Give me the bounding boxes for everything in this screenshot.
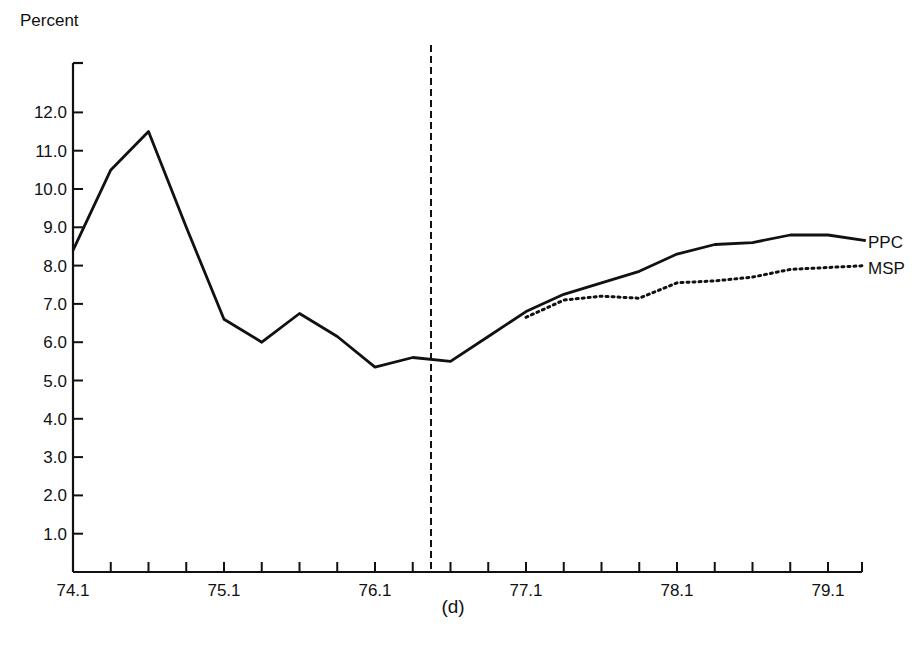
x-tick-label: 78.1 — [660, 581, 693, 600]
series-ppc-line — [73, 132, 866, 368]
x-tick-label: 74.1 — [56, 581, 89, 600]
y-tick-label: 1.0 — [43, 525, 67, 544]
y-tick-label: 6.0 — [43, 333, 67, 352]
y-tick-label: 5.0 — [43, 372, 67, 391]
line-chart: 1.02.03.04.05.06.07.08.09.010.011.012.0 … — [0, 0, 923, 652]
series-lines — [73, 132, 866, 368]
y-tick-label: 8.0 — [43, 257, 67, 276]
panel-label: (d) — [441, 596, 464, 617]
y-tick-label: 7.0 — [43, 295, 67, 314]
x-tick-label: 79.1 — [811, 581, 844, 600]
x-axis: 74.175.176.177.178.179.1 — [56, 562, 862, 600]
series-label-msp: MSP — [868, 259, 905, 278]
x-tick-label: 75.1 — [207, 581, 240, 600]
y-tick-label: 10.0 — [34, 180, 67, 199]
y-tick-label: 3.0 — [43, 448, 67, 467]
x-tick-label: 77.1 — [509, 581, 542, 600]
x-tick-label: 76.1 — [358, 581, 391, 600]
y-tick-label: 2.0 — [43, 486, 67, 505]
series-label-ppc: PPC — [868, 233, 903, 252]
y-tick-label: 11.0 — [35, 142, 67, 161]
y-axis-title: Percent — [20, 11, 79, 30]
y-tick-label: 4.0 — [43, 410, 67, 429]
y-tick-label: 9.0 — [43, 218, 67, 237]
y-tick-label: 12.0 — [34, 103, 67, 122]
y-axis: 1.02.03.04.05.06.07.08.09.010.011.012.0 — [34, 63, 83, 572]
